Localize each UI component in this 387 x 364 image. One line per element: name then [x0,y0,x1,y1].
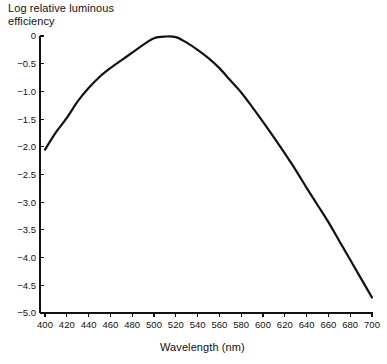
chart-container: Log relative luminous efficiency 0−0.5−1… [0,0,387,364]
x-tick-label: 520 [168,319,184,330]
y-tick-label: −4.0 [17,252,36,263]
axis-group [40,36,373,313]
x-tick-label: 700 [364,319,380,330]
x-axis-ticks: 4004204404604805005205405605806006206406… [37,313,380,330]
x-tick-label: 640 [299,319,315,330]
plot-area: 0−0.5−1.0−1.5−2.0−2.5−3.0−3.5−4.0−4.5−5.… [0,0,387,364]
x-tick-label: 580 [233,319,249,330]
x-tick-label: 540 [190,319,206,330]
x-tick-label: 660 [320,319,336,330]
x-tick-label: 620 [277,319,293,330]
data-curve [45,36,372,297]
x-tick-label: 400 [37,319,53,330]
x-tick-label: 560 [211,319,227,330]
y-tick-label: −2.5 [17,169,36,180]
y-tick-label: −5.0 [17,307,36,318]
x-axis-title: Wavelength (nm) [160,341,300,354]
y-tick-label: −0.5 [17,58,36,69]
y-tick-label: −3.5 [17,224,36,235]
x-tick-label: 500 [146,319,162,330]
x-tick-label: 420 [59,319,75,330]
y-tick-label: −3.0 [17,197,36,208]
x-tick-label: 680 [342,319,358,330]
x-tick-label: 460 [102,319,118,330]
y-tick-label: −1.5 [17,114,36,125]
data-series-group [45,36,372,297]
x-tick-label: 480 [124,319,140,330]
y-tick-label: −1.0 [17,86,36,97]
y-tick-label: −2.0 [17,141,36,152]
x-tick-label: 440 [81,319,97,330]
y-tick-label: 0 [31,30,36,41]
y-tick-label: −4.5 [17,280,36,291]
x-tick-label: 600 [255,319,271,330]
